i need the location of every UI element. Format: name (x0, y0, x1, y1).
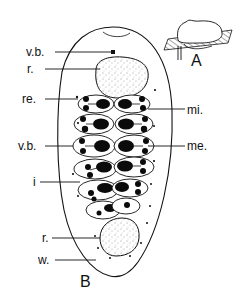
chambers-left (73, 95, 120, 219)
diagram-canvas: A (0, 0, 251, 306)
label-w: w. (37, 253, 49, 267)
label-r-top: r. (27, 62, 34, 76)
gall-body (177, 20, 222, 43)
panel-label-b: B (80, 273, 91, 290)
chambers-right (112, 95, 154, 214)
label-mi: mi. (187, 103, 203, 117)
apical-arc (103, 32, 130, 37)
label-r-bottom: r. (42, 231, 49, 245)
vascular-bundle-dot (111, 50, 115, 54)
panel-label-a: A (191, 52, 202, 69)
label-vb-mid: v.b. (18, 139, 36, 153)
reserve-tissue-top (96, 57, 148, 98)
label-vb-top: v.b. (26, 45, 44, 59)
reserve-tissue-bottom (100, 218, 139, 256)
label-i: i (33, 175, 36, 189)
panel-b: B (58, 27, 172, 290)
label-re: re. (22, 92, 36, 106)
inset-a: A (164, 20, 232, 69)
label-me: me. (187, 139, 207, 153)
